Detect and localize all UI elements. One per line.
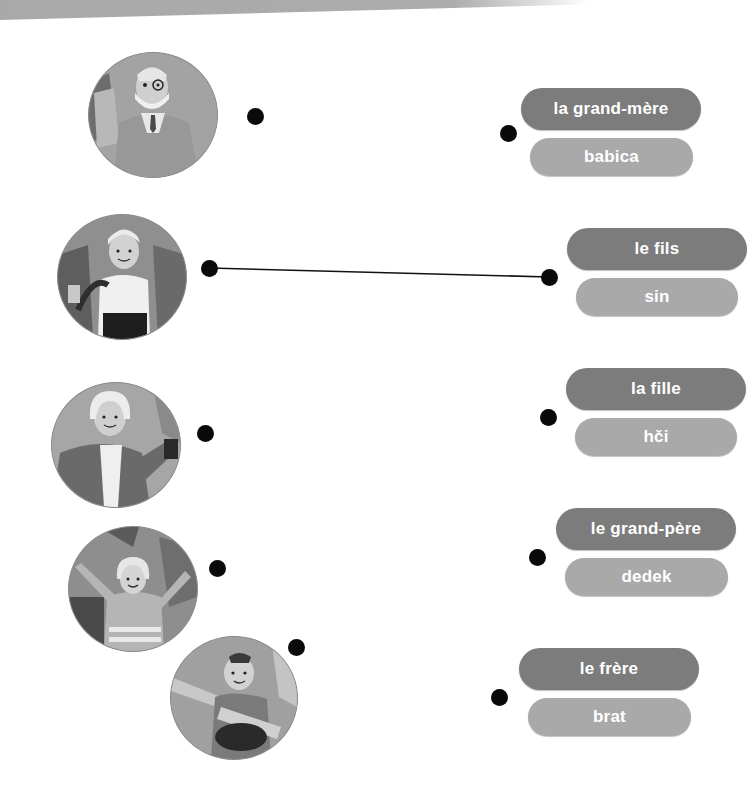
boy2-illustration — [171, 637, 297, 759]
french-word-le-grand-pere[interactable]: le grand-père — [556, 508, 736, 550]
slovene-word-hci: hči — [575, 418, 737, 456]
girl-illustration — [69, 527, 197, 651]
french-word-la-grand-mere[interactable]: la grand-mère — [521, 88, 701, 130]
slovene-word-babica: babica — [530, 138, 693, 176]
pair-1-dot[interactable] — [500, 125, 517, 142]
boy-photo — [57, 214, 187, 340]
french-word-le-fils[interactable]: le fils — [567, 228, 747, 270]
pair-2-dot[interactable] — [541, 269, 558, 286]
slovene-word-brat: brat — [528, 698, 691, 736]
grandmother-photo — [51, 382, 181, 508]
slovene-word-sin: sin — [576, 278, 738, 316]
french-word-la-fille[interactable]: la fille — [566, 368, 746, 410]
pair-3-dot[interactable] — [540, 409, 557, 426]
slovene-word-dedek: dedek — [565, 558, 728, 596]
grandfather-illustration — [89, 53, 217, 177]
photo-4-dot[interactable] — [209, 560, 226, 577]
french-word-le-frere[interactable]: le frère — [519, 648, 699, 690]
pair-5-dot[interactable] — [491, 689, 508, 706]
pair-4-dot[interactable] — [529, 549, 546, 566]
grandfather-photo — [88, 52, 218, 178]
photo-5-dot[interactable] — [288, 639, 305, 656]
grandmother-illustration — [52, 383, 180, 507]
girl-photo — [68, 526, 198, 652]
photo-3-dot[interactable] — [197, 425, 214, 442]
photo-2-dot[interactable] — [201, 260, 218, 277]
photo-1-dot[interactable] — [247, 108, 264, 125]
boy-illustration — [58, 215, 186, 339]
page-header-band — [0, 0, 755, 20]
boy2-photo — [170, 636, 298, 760]
